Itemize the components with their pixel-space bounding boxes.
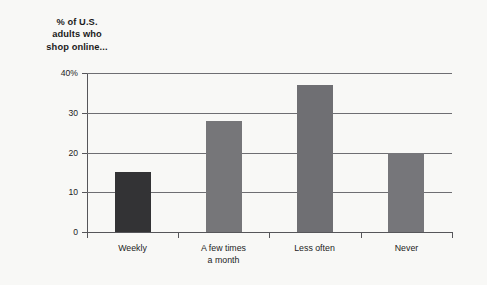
x-tick-1 xyxy=(178,233,179,238)
y-label-0: 0 xyxy=(38,228,78,237)
x-tick-2 xyxy=(269,233,270,238)
x-label-weekly-line-1: Weekly xyxy=(87,243,178,255)
bar-less-often xyxy=(297,85,333,232)
y-label-20: 20 xyxy=(38,149,78,158)
y-label-40: 40% xyxy=(38,69,78,78)
y-label-30: 30 xyxy=(38,109,78,118)
bar-a-few-times-a-month xyxy=(206,121,242,232)
x-label-never: Never xyxy=(361,243,452,255)
x-tick-0 xyxy=(87,233,88,238)
bar-never xyxy=(388,153,424,233)
bar-weekly xyxy=(115,172,151,232)
x-tick-4 xyxy=(452,233,453,238)
x-label-a-few-times-a-month-line-2: a month xyxy=(178,255,269,267)
x-label-weekly: Weekly xyxy=(87,243,178,255)
y-label-10: 10 xyxy=(38,188,78,197)
x-label-less-often: Less often xyxy=(269,243,360,255)
bar-chart-figure: % of U.S. adults who shop online... 40% … xyxy=(0,0,487,285)
bars-layer xyxy=(87,73,452,232)
x-tick-3 xyxy=(361,233,362,238)
x-label-never-line-1: Never xyxy=(361,243,452,255)
x-axis-line xyxy=(87,232,453,233)
x-label-a-few-times-a-month-line-1: A few times xyxy=(178,243,269,255)
x-label-less-often-line-1: Less often xyxy=(269,243,360,255)
x-label-a-few-times-a-month: A few times a month xyxy=(178,243,269,266)
y-axis-labels: 40% 30 20 10 0 xyxy=(38,0,78,285)
